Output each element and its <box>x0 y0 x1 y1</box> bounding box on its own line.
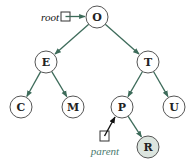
node-label: P <box>118 101 126 114</box>
node-label: U <box>169 101 179 114</box>
node-label: R <box>143 141 153 154</box>
parent-pointer: parent <box>90 117 120 157</box>
root-pointer: root <box>41 11 85 23</box>
node-label: O <box>92 11 102 24</box>
edge-T-U <box>154 72 168 97</box>
tree-edges <box>27 24 168 137</box>
tree-node-U: U <box>163 96 185 118</box>
edge-E-C <box>27 72 41 97</box>
node-label: M <box>67 101 79 114</box>
edge-P-R <box>128 116 141 137</box>
bst-diagram: root parent OETCMPUR <box>0 0 190 167</box>
parent-arrow <box>105 117 116 136</box>
tree-node-R: R <box>137 136 159 158</box>
tree-node-O: O <box>86 6 108 28</box>
node-label: C <box>17 101 26 114</box>
edge-T-P <box>128 72 142 97</box>
tree-node-P: P <box>111 96 133 118</box>
node-label: T <box>144 56 153 69</box>
tree-nodes: OETCMPUR <box>10 6 185 158</box>
edge-O-E <box>55 24 89 54</box>
tree-node-M: M <box>62 96 84 118</box>
edge-E-M <box>52 71 67 96</box>
root-label: root <box>41 11 60 23</box>
tree-node-E: E <box>35 51 57 73</box>
tree-node-C: C <box>10 96 32 118</box>
tree-node-T: T <box>137 51 159 73</box>
node-label: E <box>42 56 50 69</box>
edge-O-T <box>105 24 139 54</box>
parent-label: parent <box>90 145 120 157</box>
